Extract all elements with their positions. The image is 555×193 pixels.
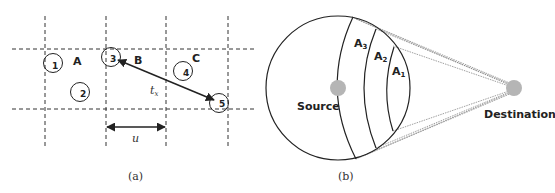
node-1-label: 1 [52, 61, 58, 71]
caption-b: (b) [338, 170, 354, 183]
figure: A B C 1 2 3 4 5 tx u (a) A [0, 0, 555, 193]
node-5-label: 5 [219, 99, 225, 109]
node-3-label: 3 [110, 54, 116, 64]
cell-width-label: u [132, 132, 139, 145]
arc-a1 [387, 47, 394, 131]
region-label-a3: A3 [354, 37, 368, 51]
distance-label: tx [150, 84, 158, 98]
cell-label-b: B [134, 54, 142, 67]
source-dot [330, 80, 346, 96]
dotted-rays [352, 17, 512, 159]
destination-dot [506, 80, 522, 96]
node-2-label: 2 [80, 89, 86, 99]
cell-label-a: A [73, 55, 82, 68]
region-label-a1: A1 [392, 65, 406, 79]
caption-a: (a) [128, 170, 143, 183]
destination-label: Destination [484, 108, 555, 121]
node-4-label: 4 [183, 68, 189, 78]
source-label: Source [297, 100, 340, 113]
region-label-a2: A2 [374, 50, 388, 64]
cell-label-c: C [192, 52, 200, 65]
